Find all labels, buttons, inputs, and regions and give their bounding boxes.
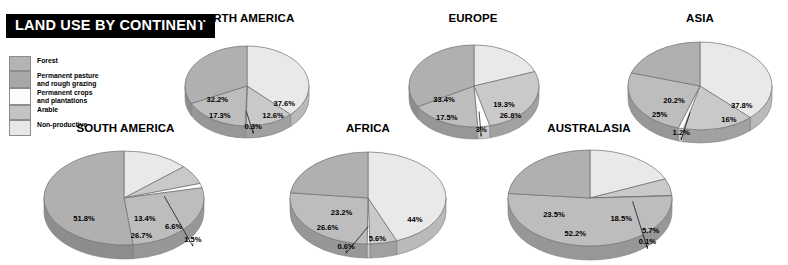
pie-slice-label: 26.7% [131, 231, 153, 240]
pie-chart-canvas: 18.5%5.7%0.1%52.2%23.5% [500, 136, 678, 265]
pie-chart-canvas: 44%5.6%0.6%26.6%23.2% [282, 136, 454, 265]
pie-slice-label: 3% [476, 125, 487, 134]
legend-swatch [9, 105, 31, 120]
legend-swatch [9, 88, 31, 105]
pie-slice-label: 0.3% [245, 122, 263, 131]
legend-item: Permanent crops and plantations [9, 88, 139, 105]
pie-chart-title: NORTH AMERICA [175, 12, 315, 24]
pie-slice-label: 13.4% [134, 214, 156, 223]
pie-slice [508, 150, 590, 198]
legend-swatch [9, 120, 31, 135]
pie-slice-label: 51.8% [73, 214, 95, 223]
pie-slice-label: 12.6% [262, 111, 284, 120]
pie-chart-title: ASIA [620, 12, 780, 24]
pie-chart-title: AUSTRALASIA [500, 122, 678, 134]
pie-slice-label: 25% [652, 110, 667, 119]
pie-slice-label: 37.8% [731, 101, 753, 110]
pie-slice-label: 5.7% [642, 226, 660, 235]
pie-slice-label: 18.5% [610, 214, 632, 223]
legend-swatch [9, 71, 31, 88]
pie-slice-label: 32.2% [206, 95, 228, 104]
pie-slice-label: 23.2% [331, 208, 353, 217]
pie-slice-label: 17.3% [209, 111, 231, 120]
legend-swatch [9, 56, 31, 71]
pie-chart-canvas: 13.4%6.6%1.5%26.7%51.8% [38, 136, 213, 265]
pie-slice-label: 23.5% [543, 210, 565, 219]
legend-item-label: Forest [37, 56, 58, 65]
pie-chart-title: AFRICA [282, 122, 454, 134]
legend-item: Permanent pasture and rough grazing [9, 71, 139, 88]
pie-chart-title: SOUTH AMERICA [38, 122, 213, 134]
legend-item: Forest [9, 56, 139, 71]
pie-slice-label: 52.2% [564, 229, 586, 238]
pie-slice-label: 33.4% [433, 95, 455, 104]
pie-slice-label: 16% [721, 115, 736, 124]
legend-item: Arable [9, 105, 139, 120]
pie-slice-label: 37.6% [273, 99, 295, 108]
legend-item-label: Permanent pasture and rough grazing [37, 71, 99, 88]
pie-slice-label: 20.2% [663, 96, 685, 105]
pie-slice [290, 152, 368, 198]
pie-slice-label: 5.6% [369, 234, 387, 243]
pie-chart-title: EUROPE [398, 12, 548, 24]
legend-item-label: Arable [37, 105, 58, 114]
pie-slice-label: 0.1% [639, 237, 657, 246]
pie-slice-label: 0.6% [338, 242, 356, 251]
pie-slice-label: 26.8% [500, 111, 522, 120]
pie-slice-label: 1.5% [184, 235, 202, 244]
pie-slice-label: 19.3% [493, 100, 515, 109]
legend-item-label: Permanent crops and plantations [37, 88, 93, 105]
pie-slice-label: 44% [407, 215, 422, 224]
pie-slice-label: 26.6% [317, 223, 339, 232]
